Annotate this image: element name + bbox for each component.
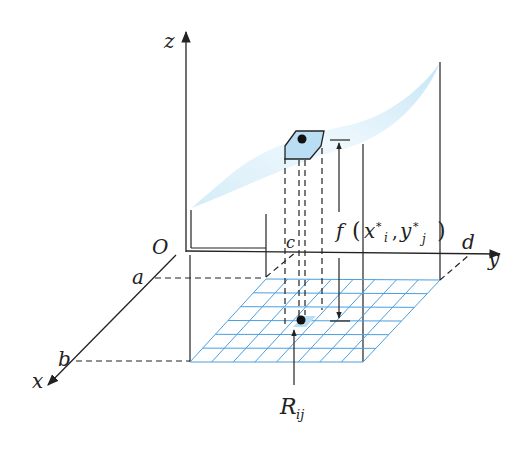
y-axis	[186, 251, 500, 254]
label-c: c	[286, 233, 295, 252]
dash-c	[266, 252, 296, 277]
region-label: R ij	[279, 394, 304, 422]
region-label-R: R	[279, 394, 297, 419]
label-origin: O	[152, 235, 168, 259]
label-z: z	[163, 29, 175, 53]
partition-grid	[190, 279, 440, 362]
riemann-sum-diagram: z y x O a b c d f ( x * i , y * j ) R ij	[0, 0, 526, 454]
label-y: y	[487, 247, 500, 271]
height-label-lparen: (	[352, 218, 361, 243]
height-label-x: x	[364, 219, 375, 243]
height-label-j: j	[419, 232, 426, 246]
label-d: d	[462, 230, 475, 254]
height-label-rparen: )	[437, 218, 446, 243]
dash-d	[440, 256, 468, 280]
sample-point-top	[298, 135, 307, 144]
height-label-i: i	[384, 231, 388, 245]
label-a: a	[132, 265, 144, 289]
height-label: f ( x * i , y * j )	[334, 218, 446, 246]
height-label-star2: *	[413, 220, 419, 233]
height-label-star1: *	[376, 220, 382, 233]
label-b: b	[58, 347, 71, 371]
height-label-f: f	[334, 219, 347, 243]
region-label-sub: ij	[296, 407, 304, 422]
label-x: x	[32, 369, 43, 393]
height-label-y: y	[399, 219, 412, 243]
height-label-comma: ,	[392, 221, 398, 242]
sample-point-base	[297, 316, 306, 325]
